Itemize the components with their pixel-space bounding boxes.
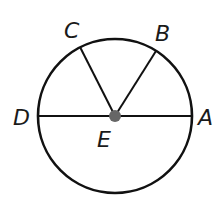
label-B: B bbox=[155, 21, 170, 46]
center-point-E bbox=[109, 110, 121, 122]
radius-EC bbox=[80, 47, 115, 116]
label-E: E bbox=[97, 127, 111, 152]
circle-diagram: C B D A E bbox=[0, 0, 219, 207]
label-A: A bbox=[196, 105, 213, 130]
radius-EB bbox=[115, 51, 156, 116]
label-D: D bbox=[13, 105, 30, 130]
label-C: C bbox=[64, 18, 80, 43]
